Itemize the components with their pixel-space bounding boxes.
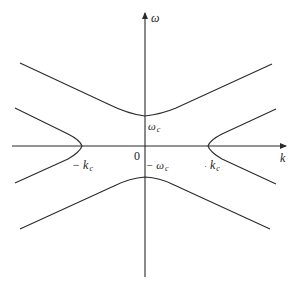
k-c-symbol: k — [210, 158, 215, 172]
neg-omega-c-sub: c — [165, 164, 169, 173]
omega-c-symbol: ω — [148, 120, 156, 132]
neg-k-c-sub: c — [89, 164, 93, 173]
upper-hyperbola — [20, 63, 272, 116]
omega-c-sub: c — [157, 125, 161, 134]
omega-axis-label: ω — [151, 12, 159, 24]
k-c-label: ·kc — [204, 159, 220, 173]
omega-c-label: ωc — [148, 121, 160, 134]
k-axis-label: k — [280, 152, 285, 164]
neg-k-c-label: − kc — [72, 159, 93, 173]
dispersion-diagram: ω k 0 ωc − ωc − kc ·kc — [0, 0, 300, 294]
neg-omega-c-label: − ωc — [146, 160, 169, 173]
neg-k-c-symbol: − k — [72, 158, 88, 172]
neg-omega-c-symbol: − ω — [146, 159, 164, 171]
k-c-sub: c — [216, 164, 220, 173]
k-c-dot: · — [204, 161, 207, 171]
origin-label: 0 — [134, 150, 140, 162]
diagram-canvas — [0, 0, 300, 294]
